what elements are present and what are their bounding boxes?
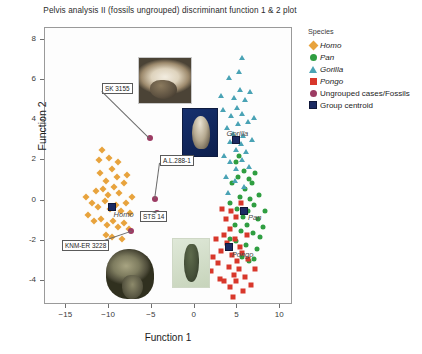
data-point-gorilla — [234, 105, 240, 110]
knm-er-3228-pelvis-photo — [106, 249, 154, 299]
species-tag-gorilla: Gorilla — [227, 129, 249, 138]
data-point-pan — [227, 200, 232, 205]
data-point-pan — [248, 196, 253, 201]
data-point-pongo — [231, 272, 236, 277]
y-tick-label: 2 — [14, 154, 36, 163]
data-point-homo — [105, 155, 112, 162]
legend-item-ungrouped-cases-fossils[interactable]: Ungrouped cases/Fossils — [306, 87, 420, 99]
data-point-gorilla — [225, 190, 231, 195]
data-point-pan — [244, 222, 249, 227]
data-point-homo — [114, 159, 121, 166]
x-tick-label: 10 — [265, 310, 293, 319]
data-point-gorilla — [231, 95, 237, 100]
data-point-pongo — [219, 206, 224, 211]
legend-item-label: Homo — [320, 41, 341, 50]
data-point-homo — [82, 193, 89, 200]
data-point-gorilla — [232, 178, 238, 183]
x-tick-mark — [151, 304, 152, 308]
data-point-homo — [129, 193, 136, 200]
data-point-pongo — [213, 236, 218, 241]
data-point-homo — [103, 177, 110, 184]
x-tick-mark — [279, 304, 280, 308]
data-point-pan — [260, 224, 265, 229]
species-tag-pan: Pan — [248, 213, 261, 222]
legend: Species HomoPanGorillaPongoUngrouped cas… — [306, 27, 420, 111]
square-icon — [306, 101, 320, 109]
x-tick-mark — [194, 304, 195, 308]
data-point-homo — [94, 203, 101, 210]
triangle-icon — [306, 66, 320, 73]
legend-item-pongo[interactable]: Pongo — [306, 75, 420, 87]
diamond-icon — [306, 42, 320, 49]
data-point-pongo — [222, 278, 227, 283]
legend-item-homo[interactable]: Homo — [306, 39, 420, 51]
data-point-homo — [111, 183, 118, 190]
x-tick-mark — [236, 304, 237, 308]
data-point-gorilla — [235, 121, 241, 126]
data-point-homo — [120, 219, 127, 226]
square-icon — [306, 78, 320, 85]
legend-item-group-centroid[interactable]: Group centroid — [306, 99, 420, 111]
data-point-gorilla — [247, 89, 253, 94]
x-tick-label: −5 — [137, 310, 165, 319]
species-tag-pongo: Pongo — [232, 250, 254, 259]
data-point-homo — [123, 199, 130, 206]
data-point-gorilla — [239, 111, 245, 116]
data-point-pongo — [242, 274, 247, 279]
data-point-pongo — [241, 288, 246, 293]
data-point-homo — [97, 169, 104, 176]
legend-item-label: Pongo — [320, 77, 343, 86]
sk-3155-pelvis-photo — [138, 57, 192, 104]
y-tick-mark — [40, 39, 44, 40]
data-point-pongo — [248, 282, 253, 287]
data-point-gorilla — [228, 113, 234, 118]
data-point-homo — [95, 157, 102, 164]
legend-item-label: Group centroid — [320, 101, 373, 110]
data-point-homo — [98, 215, 105, 222]
al-288-1-pelvis-photo — [182, 108, 218, 157]
data-point-pan — [235, 206, 240, 211]
annotation-label-sk-3155: SK 3155 — [102, 83, 133, 94]
data-point-pongo — [218, 276, 223, 281]
group-centroid-pan — [240, 207, 248, 215]
data-point-gorilla — [239, 55, 245, 60]
data-point-homo — [108, 165, 115, 172]
data-point-pan — [232, 222, 237, 227]
data-point-gorilla — [245, 119, 251, 124]
data-point-pan — [238, 228, 243, 233]
data-point-gorilla — [233, 147, 239, 152]
x-tick-label: 5 — [222, 310, 250, 319]
y-tick-label: 8 — [14, 34, 36, 43]
y-axis-label: Function 2 — [36, 66, 48, 186]
data-point-gorilla — [223, 174, 229, 179]
data-point-pongo — [232, 236, 237, 241]
legend-item-pan[interactable]: Pan — [306, 51, 420, 63]
data-point-gorilla — [226, 75, 232, 80]
data-point-homo — [99, 147, 106, 154]
data-point-homo — [85, 211, 92, 218]
y-tick-label: -2 — [14, 235, 36, 244]
data-point-homo — [99, 185, 106, 192]
y-tick-label: 0 — [14, 195, 36, 204]
data-point-pan — [253, 170, 258, 175]
data-point-pongo — [237, 244, 242, 249]
data-point-gorilla — [239, 157, 245, 162]
circle-icon — [306, 54, 320, 61]
data-point-pongo — [236, 266, 241, 271]
data-point-pongo — [228, 284, 233, 289]
data-point-pan — [258, 234, 263, 239]
y-tick-mark — [40, 240, 44, 241]
data-point-pongo — [244, 232, 249, 237]
data-point-pan — [256, 192, 261, 197]
data-point-pongo — [230, 294, 235, 299]
data-point-pongo — [227, 226, 232, 231]
data-point-pan — [263, 208, 268, 213]
x-tick-mark — [65, 304, 66, 308]
data-point-pongo — [216, 260, 221, 265]
y-tick-label: 6 — [14, 74, 36, 83]
data-point-pan — [242, 168, 247, 173]
legend-item-label: Pan — [320, 53, 334, 62]
legend-item-gorilla[interactable]: Gorilla — [306, 63, 420, 75]
data-point-pongo — [235, 258, 240, 263]
data-point-gorilla — [237, 87, 243, 92]
